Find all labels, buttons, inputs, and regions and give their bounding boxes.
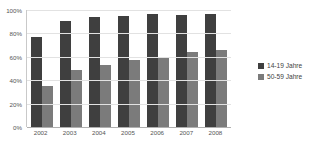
- gridline: [27, 57, 231, 58]
- gridline: [27, 33, 231, 34]
- bar: [31, 37, 42, 127]
- bar-group: [144, 10, 173, 127]
- bar-group: [56, 10, 85, 127]
- bar-group: [85, 10, 114, 127]
- bar: [42, 86, 53, 127]
- axis-baseline: [27, 127, 231, 128]
- bar: [176, 15, 187, 127]
- y-axis-tick-label: 40%: [10, 77, 22, 84]
- plot-area: [26, 10, 231, 127]
- chart-legend: 14-19 Jahre50-59 Jahre: [258, 60, 330, 82]
- bar: [158, 57, 169, 127]
- y-axis: 0%20%40%60%80%100%: [0, 0, 24, 149]
- bar-chart: 0%20%40%60%80%100% 200220032004200520062…: [0, 0, 333, 149]
- gridline: [27, 104, 231, 105]
- plot-wrapper: 0%20%40%60%80%100% 200220032004200520062…: [0, 0, 240, 149]
- y-axis-tick-label: 20%: [10, 100, 22, 107]
- bar: [129, 60, 140, 127]
- x-axis-tick-label: 2002: [26, 129, 55, 143]
- legend-swatch-icon: [258, 74, 264, 80]
- legend-item[interactable]: 50-59 Jahre: [258, 71, 330, 82]
- legend-swatch-icon: [258, 63, 264, 69]
- legend-item-label: 50-59 Jahre: [267, 73, 302, 81]
- y-axis-tick-label: 0%: [13, 124, 22, 131]
- bar: [187, 52, 198, 127]
- y-axis-tick-label: 80%: [10, 30, 22, 37]
- bar-group: [114, 10, 143, 127]
- bar: [216, 50, 227, 127]
- x-axis-tick-label: 2005: [113, 129, 142, 143]
- x-axis-tick-label: 2004: [84, 129, 113, 143]
- bar: [147, 14, 158, 127]
- bar-group: [202, 10, 231, 127]
- legend-item-label: 14-19 Jahre: [267, 62, 302, 70]
- x-axis: 2002200320042005200620072008: [26, 129, 230, 143]
- bar: [100, 65, 111, 127]
- gridline: [27, 10, 231, 11]
- bar: [205, 14, 216, 127]
- bar: [60, 21, 71, 127]
- x-axis-tick-label: 2008: [201, 129, 230, 143]
- bar-groups: [27, 10, 231, 127]
- bar-group: [173, 10, 202, 127]
- y-axis-tick-label: 60%: [10, 53, 22, 60]
- legend-item[interactable]: 14-19 Jahre: [258, 60, 330, 71]
- bar: [71, 70, 82, 127]
- x-axis-tick-label: 2007: [172, 129, 201, 143]
- gridline: [27, 80, 231, 81]
- x-axis-tick-label: 2006: [143, 129, 172, 143]
- y-axis-tick-label: 100%: [6, 7, 22, 14]
- bar-group: [27, 10, 56, 127]
- x-axis-tick-label: 2003: [55, 129, 84, 143]
